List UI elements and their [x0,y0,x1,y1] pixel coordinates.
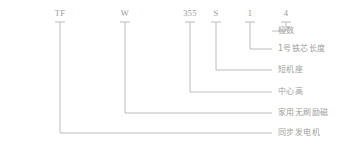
description-label-0: 同步发电机 [278,128,320,138]
code-token-3: S [213,8,218,18]
description-label-2: 中心高 [278,87,303,97]
description-label-4: 1号铁芯长度 [278,44,326,54]
leader-line-3 [216,22,272,70]
leader-line-2 [190,22,272,92]
leader-line-4 [250,22,272,49]
code-token-1: W [121,8,129,18]
description-label-5: 极数 [278,26,295,36]
code-token-5: 4 [284,8,289,18]
model-designation-diagram: TFW355S14 同步发电机家用无刷励磁中心高短机座1号铁芯长度极数 [0,0,347,149]
leader-line-0 [60,22,272,133]
code-token-4: 1 [248,8,253,18]
description-label-3: 短机座 [278,65,303,75]
code-token-2: 355 [183,8,197,18]
description-label-1: 家用无刷励磁 [278,108,328,118]
leader-lines-layer [55,22,291,133]
code-token-0: TF [55,8,66,18]
